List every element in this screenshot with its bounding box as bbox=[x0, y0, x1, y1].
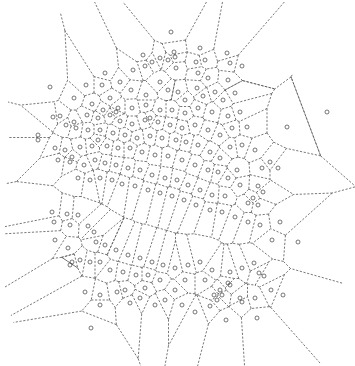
site-point bbox=[140, 150, 144, 154]
voronoi-edge bbox=[217, 61, 218, 67]
voronoi-edge bbox=[183, 272, 195, 274]
site-point bbox=[196, 71, 200, 75]
site-point bbox=[128, 301, 132, 305]
site-point bbox=[223, 194, 227, 198]
voronoi-edge bbox=[194, 97, 195, 100]
site-point bbox=[126, 166, 130, 170]
site-point bbox=[128, 146, 132, 150]
voronoi-edge bbox=[218, 186, 219, 203]
voronoi-edge bbox=[253, 229, 271, 244]
voronoi-edge bbox=[165, 346, 169, 366]
voronoi-edge bbox=[238, 157, 244, 158]
voronoi-edge bbox=[256, 214, 269, 215]
voronoi-edge bbox=[115, 298, 123, 307]
site-point bbox=[90, 102, 94, 106]
voronoi-edge bbox=[155, 293, 168, 319]
voronoi-edge bbox=[188, 293, 195, 294]
voronoi-edge bbox=[211, 164, 215, 182]
voronoi-edge bbox=[194, 135, 199, 136]
voronoi-edge bbox=[236, 175, 250, 178]
voronoi-edge bbox=[166, 52, 170, 55]
voronoi-edge bbox=[185, 154, 192, 171]
voronoi-edge bbox=[222, 243, 224, 244]
voronoi-edge bbox=[199, 135, 209, 141]
voronoi-edge bbox=[235, 135, 240, 138]
voronoi-edge bbox=[110, 300, 116, 307]
voronoi-edge bbox=[142, 280, 152, 282]
site-point bbox=[143, 64, 147, 68]
voronoi-edge bbox=[118, 222, 135, 262]
voronoi-edge bbox=[161, 52, 165, 70]
voronoi-edge bbox=[199, 49, 213, 55]
voronoi-edge bbox=[81, 106, 93, 112]
voronoi-edge bbox=[115, 281, 119, 282]
voronoi-edge bbox=[197, 286, 212, 295]
site-point bbox=[253, 148, 257, 152]
voronoi-edge bbox=[165, 71, 172, 78]
voronoi-edge bbox=[218, 109, 221, 122]
voronoi-edge bbox=[157, 129, 162, 130]
voronoi-edge bbox=[106, 138, 114, 141]
voronoi-edge bbox=[185, 69, 187, 79]
voronoi-edge bbox=[76, 106, 81, 110]
voronoi-edge bbox=[241, 318, 244, 366]
voronoi-edge bbox=[170, 132, 175, 134]
site-point bbox=[96, 116, 100, 120]
voronoi-edge bbox=[117, 48, 137, 62]
voronoi-edge bbox=[81, 240, 82, 246]
voronoi-edge bbox=[150, 293, 156, 296]
voronoi-edge bbox=[219, 240, 222, 242]
site-point bbox=[180, 158, 184, 162]
voronoi-edge bbox=[165, 279, 172, 290]
voronoi-edge bbox=[162, 40, 185, 44]
voronoi-edge bbox=[94, 77, 111, 81]
voronoi-edge bbox=[212, 286, 218, 294]
voronoi-edge bbox=[119, 282, 123, 299]
voronoi-edge bbox=[195, 273, 196, 274]
voronoi-edge bbox=[81, 123, 83, 137]
voronoi-edge bbox=[135, 222, 142, 224]
voronoi-edge bbox=[248, 297, 252, 309]
voronoi-edge bbox=[175, 79, 185, 80]
voronoi-edge bbox=[78, 237, 80, 239]
voronoi-edge bbox=[250, 262, 269, 271]
voronoi-edge bbox=[98, 235, 104, 252]
voronoi-edge bbox=[207, 102, 212, 105]
site-point bbox=[143, 286, 147, 290]
voronoi-edge bbox=[115, 261, 118, 280]
site-point bbox=[226, 78, 230, 82]
voronoi-edge bbox=[133, 177, 143, 180]
voronoi-edge bbox=[232, 243, 239, 244]
voronoi-edge bbox=[169, 299, 175, 319]
voronoi-edge bbox=[247, 283, 248, 284]
voronoi-edge bbox=[249, 189, 257, 192]
voronoi-edge bbox=[54, 102, 57, 124]
voronoi-edge bbox=[191, 178, 198, 194]
site-point bbox=[281, 293, 285, 297]
voronoi-edge bbox=[187, 173, 198, 177]
voronoi-edge bbox=[166, 100, 171, 101]
voronoi-edge bbox=[230, 178, 236, 188]
voronoi-edge bbox=[142, 130, 144, 144]
voronoi-edge bbox=[61, 231, 67, 237]
site-point bbox=[111, 131, 115, 135]
voronoi-edge bbox=[6, 182, 17, 184]
voronoi-edge bbox=[220, 307, 229, 311]
voronoi-edge bbox=[20, 105, 52, 132]
voronoi-edge bbox=[16, 182, 52, 186]
voronoi-edge bbox=[239, 109, 267, 122]
voronoi-edge bbox=[251, 203, 253, 212]
voronoi-edge bbox=[66, 236, 78, 237]
site-point bbox=[166, 88, 170, 92]
voronoi-edge bbox=[145, 110, 152, 112]
voronoi-edge bbox=[211, 123, 218, 141]
voronoi-edge bbox=[249, 243, 252, 244]
voronoi-edge bbox=[194, 234, 212, 237]
site-point bbox=[118, 119, 122, 123]
voronoi-edge bbox=[175, 119, 178, 131]
voronoi-edge bbox=[285, 269, 291, 275]
voronoi-edge bbox=[133, 158, 135, 160]
voronoi-edge bbox=[239, 244, 250, 271]
voronoi-edge bbox=[65, 157, 77, 162]
voronoi-edge bbox=[146, 52, 152, 60]
